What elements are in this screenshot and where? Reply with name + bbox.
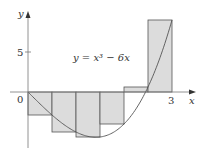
origin-label: 0 [17,94,23,105]
riemann-rectangle [52,92,76,132]
riemann-rectangle [124,87,148,92]
y-axis-arrow-icon [26,11,31,18]
x-tick-label: 3 [168,95,174,106]
riemann-sum-diagram: y 5 0 3 x y = x³ − 6x [0,0,208,155]
riemann-rectangles [28,20,172,137]
y-tick-label: 5 [17,47,23,58]
equation-label: y = x³ − 6x [72,52,130,63]
riemann-rectangle [100,92,124,124]
riemann-rectangle [76,92,100,137]
x-axis-arrow-icon [189,90,196,95]
y-axis-label: y [17,8,24,19]
x-axis-label: x [189,95,195,106]
plot-canvas: y 5 0 3 x y = x³ − 6x [0,0,208,155]
